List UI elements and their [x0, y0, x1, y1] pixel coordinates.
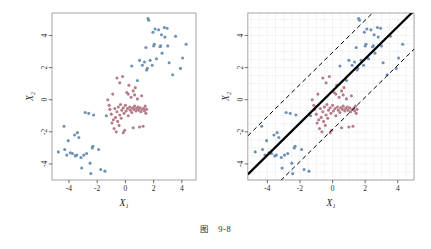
data-point — [369, 28, 372, 31]
data-point — [124, 104, 127, 107]
data-point — [290, 162, 293, 165]
data-point — [275, 154, 278, 157]
data-point — [110, 113, 113, 116]
plot-right-canvas: -4-2024-4-2024X₁X₂ — [215, 0, 430, 218]
data-point — [105, 114, 108, 117]
y-tick-label: 4 — [236, 33, 245, 37]
data-point — [151, 31, 154, 34]
data-point — [118, 81, 121, 84]
data-point — [138, 125, 141, 128]
data-point — [89, 162, 92, 165]
data-point — [151, 64, 154, 67]
data-point — [338, 111, 341, 114]
data-point — [122, 131, 125, 134]
data-point — [363, 31, 366, 34]
data-point — [163, 26, 166, 29]
data-point — [300, 148, 303, 151]
data-point — [365, 28, 368, 31]
x-tick-label: -4 — [66, 184, 73, 193]
data-point — [79, 156, 82, 159]
data-point — [128, 105, 131, 108]
data-point — [315, 113, 318, 116]
data-point — [351, 125, 354, 128]
plot-grid — [248, 13, 414, 180]
data-point — [294, 113, 297, 116]
data-point — [294, 145, 297, 148]
data-point — [379, 27, 382, 30]
data-point — [317, 118, 320, 121]
data-point — [276, 131, 279, 134]
data-point — [122, 112, 125, 115]
y-tick-label: 2 — [41, 65, 50, 69]
data-point — [127, 84, 130, 87]
data-point — [319, 107, 322, 110]
data-point — [331, 104, 334, 107]
data-point — [130, 64, 133, 67]
data-point — [358, 19, 361, 22]
x-tick-label: 4 — [180, 184, 184, 193]
data-point — [321, 76, 324, 79]
data-point — [84, 111, 87, 114]
point-series-class-blue — [57, 17, 188, 175]
x-tick-label: -2 — [94, 184, 101, 193]
data-point — [322, 120, 325, 123]
data-point — [320, 116, 323, 119]
data-point — [113, 107, 116, 110]
data-point — [65, 154, 68, 157]
data-point — [303, 168, 306, 171]
x-tick-label: 0 — [124, 184, 128, 193]
data-point — [291, 172, 294, 175]
data-point — [145, 108, 148, 111]
data-point — [329, 106, 332, 109]
data-point — [166, 27, 169, 30]
data-point — [351, 64, 354, 67]
y-tick-label: -4 — [41, 161, 50, 168]
data-point — [185, 43, 188, 46]
data-point — [334, 114, 337, 117]
data-point — [132, 89, 135, 92]
y-axis-label: X₂ — [25, 91, 35, 102]
data-point — [336, 105, 339, 108]
x-tick-label: -4 — [264, 184, 271, 193]
data-point — [154, 28, 157, 31]
data-point — [130, 96, 133, 99]
data-point — [132, 126, 135, 129]
scatter-plot-left: -4-2024-4-2024X₁X₂ — [0, 0, 215, 218]
y-tick-label: 4 — [41, 33, 50, 37]
data-point — [325, 103, 328, 106]
data-point — [307, 170, 310, 173]
data-point — [397, 56, 400, 59]
data-point — [364, 43, 367, 46]
data-point — [108, 108, 111, 111]
data-point — [71, 152, 74, 155]
data-point — [338, 64, 341, 67]
data-point — [118, 113, 121, 116]
data-point — [168, 61, 171, 64]
data-point — [323, 105, 326, 108]
data-point — [401, 43, 404, 46]
data-point — [110, 121, 113, 124]
data-point — [318, 127, 321, 130]
data-point — [92, 113, 95, 116]
data-point — [261, 148, 264, 151]
y-tick-label: 2 — [236, 65, 245, 69]
data-point — [338, 96, 341, 99]
data-point — [63, 148, 66, 151]
data-point — [316, 121, 319, 124]
figure-9-8: -4-2024-4-2024X₁X₂ -4-2024-4-2024X₁X₂ 图9… — [0, 0, 431, 249]
data-point — [118, 124, 121, 127]
data-point — [144, 112, 147, 115]
decision-boundary — [248, 11, 414, 175]
data-point — [114, 116, 117, 119]
data-point — [280, 156, 283, 159]
data-point — [157, 28, 160, 31]
data-point — [115, 130, 118, 133]
data-point — [115, 110, 118, 113]
data-point — [89, 172, 92, 175]
y-tick-label: -4 — [236, 161, 245, 168]
x-axis-label: X₁ — [118, 198, 128, 208]
data-point — [136, 79, 139, 82]
data-point — [312, 104, 315, 107]
data-point — [144, 105, 147, 108]
data-point — [329, 112, 332, 115]
